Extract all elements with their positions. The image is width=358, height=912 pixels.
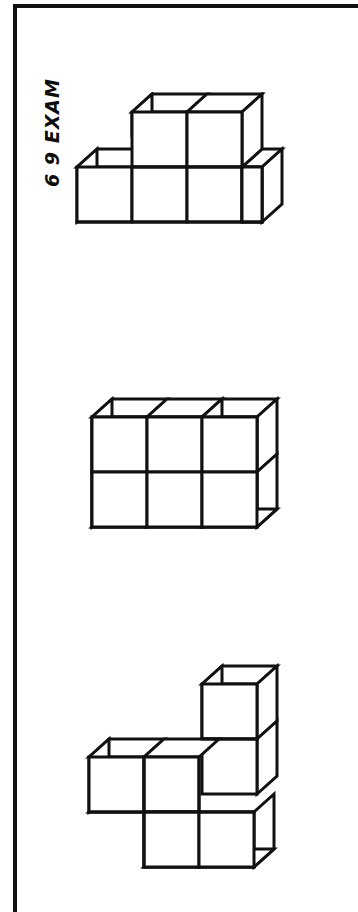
page-frame-left-rule bbox=[13, 4, 17, 912]
figure-3-drawing bbox=[72, 662, 292, 887]
isometric-block-figure-3 bbox=[72, 662, 292, 887]
figure-2-drawing bbox=[75, 382, 295, 542]
isometric-block-figure-2 bbox=[75, 382, 295, 542]
scanned-page: 6 9 EXAM bbox=[0, 0, 358, 912]
page-frame-top-rule bbox=[14, 4, 358, 8]
figure-1-drawing bbox=[60, 92, 290, 242]
isometric-block-figure-1 bbox=[60, 92, 290, 242]
